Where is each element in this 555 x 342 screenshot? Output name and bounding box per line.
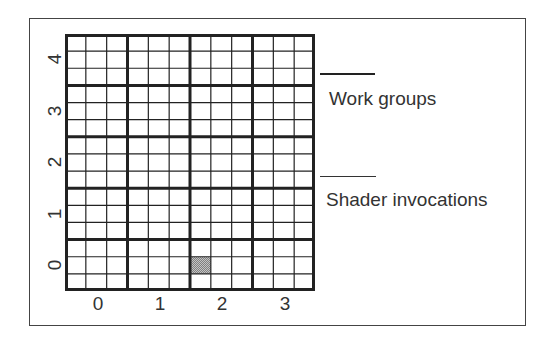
x-label-3: 3 (275, 294, 295, 314)
work-groups-legend-label: Work groups (329, 88, 436, 110)
x-label-0: 0 (88, 294, 108, 314)
y-label-0: 0 (45, 255, 65, 275)
shader-invocations-legend-line (320, 176, 376, 177)
highlighted-invocation-cell (190, 257, 211, 274)
work-groups-legend-line (320, 73, 375, 75)
x-label-2: 2 (212, 294, 232, 314)
shader-invocations-legend-label: Shader invocations (326, 189, 488, 211)
work-group-grid (65, 34, 315, 291)
x-label-1: 1 (150, 294, 170, 314)
y-label-3: 3 (45, 101, 65, 121)
y-label-2: 2 (45, 152, 65, 172)
invocation-grid-svg (65, 34, 315, 291)
y-label-1: 1 (45, 204, 65, 224)
y-label-4: 4 (45, 49, 65, 69)
